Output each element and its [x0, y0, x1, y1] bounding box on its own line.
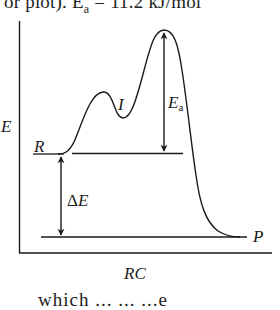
x-axis-label: RC [124, 265, 146, 282]
delta-e-label: ΔE [67, 192, 88, 209]
delta-symbol: Δ [67, 191, 78, 210]
intermediate-label: I [118, 96, 124, 113]
activation-energy-label: Ea [168, 94, 183, 113]
bottom-caption: which ... ... ...e [38, 289, 168, 310]
y-axis-label: E [1, 118, 11, 135]
delta-e-letter: E [78, 191, 88, 210]
ea-letter: E [168, 93, 178, 112]
axes [19, 21, 272, 253]
ea-subscript: a [178, 101, 183, 113]
product-label: P [253, 228, 263, 245]
reactant-label: R [34, 138, 44, 155]
